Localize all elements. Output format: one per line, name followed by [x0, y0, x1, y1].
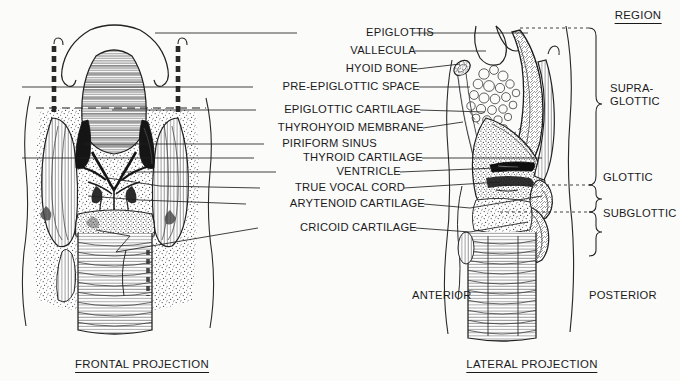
label-pre-epiglottic-space: PRE-EPIGLOTTIC SPACE	[283, 81, 420, 92]
label-thyrohyoid-membrane: THYROHYOID MEMBRANE	[278, 122, 424, 133]
region-column-header: REGION	[615, 10, 662, 24]
label-ventricle: VENTRICLE	[336, 166, 401, 177]
label-vallecula: VALLECULA	[350, 45, 416, 56]
region-label-subglottic: SUBGLOTTIC	[603, 207, 676, 220]
caption-frontal-projection: FRONTAL PROJECTION	[75, 359, 209, 373]
label-hyoid-bone: HYOID BONE	[346, 63, 418, 74]
region-label-supraglottic: SUPRA- GLOTTIC	[610, 82, 660, 107]
label-cricoid-cartilage: CRICOID CARTILAGE	[300, 222, 417, 233]
label-thyroid-cartilage: THYROID CARTILAGE	[303, 152, 423, 163]
region-label-glottic: GLOTTIC	[603, 171, 653, 184]
region-supraglottic-line1: SUPRA-	[610, 82, 660, 95]
label-epiglottic-cartilage: EPIGLOTTIC CARTILAGE	[284, 104, 421, 115]
label-piriform-sinus: PIRIFORM SINUS	[282, 138, 377, 149]
orientation-label-anterior: ANTERIOR	[412, 290, 471, 301]
region-supraglottic-line2: GLOTTIC	[610, 95, 660, 108]
label-epiglottis: EPIGLOTTIS	[366, 27, 434, 38]
caption-lateral-projection: LATERAL PROJECTION	[466, 359, 597, 373]
larynx-anatomy-figure: EPIGLOTTIS VALLECULA HYOID BONE PRE-EPIG…	[0, 0, 680, 381]
orientation-label-posterior: POSTERIOR	[589, 290, 657, 301]
label-arytenoid-cartilage: ARYTENOID CARTILAGE	[290, 198, 425, 209]
label-true-vocal-cord: TRUE VOCAL CORD	[295, 182, 405, 193]
